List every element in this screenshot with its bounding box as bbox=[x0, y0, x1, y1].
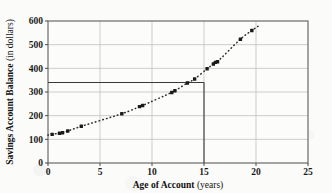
x-axis-title: Age of Account (years) bbox=[133, 180, 224, 191]
data-point bbox=[239, 38, 242, 41]
data-point bbox=[138, 105, 141, 108]
y-tick-label: 0 bbox=[38, 158, 43, 168]
data-point bbox=[141, 104, 144, 107]
y-tick-label: 600 bbox=[29, 16, 44, 26]
y-axis-title: Savings Account Balance (in dollars) bbox=[5, 19, 16, 165]
chart-figure: 0510152025 0100200300400500600 Age of Ac… bbox=[0, 0, 332, 193]
data-point bbox=[250, 29, 253, 32]
data-point bbox=[50, 133, 53, 136]
x-axis-ticks: 0510152025 bbox=[46, 163, 313, 177]
y-tick-label: 100 bbox=[29, 135, 44, 145]
x-tick-label: 10 bbox=[147, 167, 157, 177]
data-point bbox=[58, 131, 61, 134]
data-point bbox=[216, 60, 219, 63]
x-tick-label: 0 bbox=[46, 167, 51, 177]
x-tick-label: 20 bbox=[251, 167, 261, 177]
data-point bbox=[193, 77, 196, 80]
savings-account-scatter-chart: 0510152025 0100200300400500600 Age of Ac… bbox=[0, 0, 332, 193]
data-point bbox=[120, 112, 123, 115]
y-tick-label: 200 bbox=[29, 111, 44, 121]
y-tick-label: 300 bbox=[29, 87, 44, 97]
x-tick-label: 5 bbox=[98, 167, 103, 177]
data-point bbox=[186, 81, 189, 84]
data-point bbox=[80, 125, 83, 128]
data-point bbox=[66, 129, 69, 132]
y-tick-label: 400 bbox=[29, 64, 44, 74]
data-point bbox=[170, 91, 173, 94]
y-axis-ticks: 0100200300400500600 bbox=[29, 16, 48, 168]
y-tick-label: 500 bbox=[29, 40, 44, 50]
data-point bbox=[205, 67, 208, 70]
data-point bbox=[61, 131, 64, 134]
x-tick-label: 15 bbox=[199, 167, 209, 177]
x-tick-label: 25 bbox=[303, 167, 313, 177]
data-point bbox=[173, 89, 176, 92]
